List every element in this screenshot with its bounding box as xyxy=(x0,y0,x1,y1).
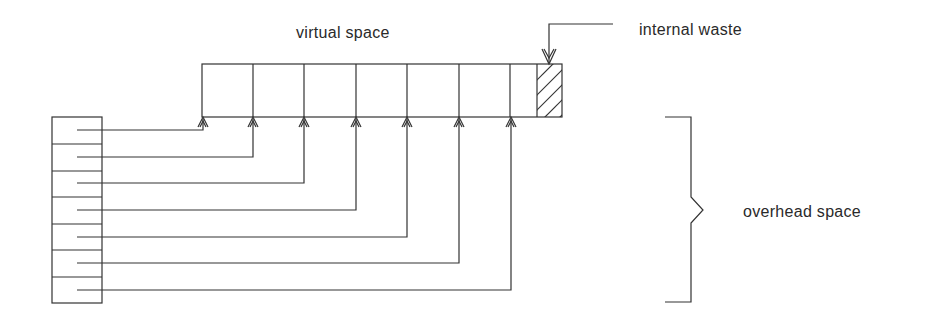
page-pointers xyxy=(77,117,516,290)
pointer-line xyxy=(77,119,459,263)
hatch-line xyxy=(530,77,570,117)
hatch-line xyxy=(530,62,570,102)
hatch-line xyxy=(530,107,570,147)
pointer-line xyxy=(77,119,203,130)
memory-overhead-diagram: virtual space internal waste overhead sp… xyxy=(0,0,938,322)
diagram-canvas xyxy=(0,0,938,322)
overhead-space-brace xyxy=(665,117,703,302)
virtual-space-strip xyxy=(202,64,562,117)
pointer-line xyxy=(549,24,613,63)
pointer-line xyxy=(77,119,511,290)
virtual-space-outline xyxy=(202,64,562,117)
pointer-line xyxy=(77,119,253,157)
virtual-space-label: virtual space xyxy=(296,25,390,41)
right-brace-icon xyxy=(665,117,703,302)
internal-waste-pointer xyxy=(542,24,613,64)
internal-waste-label: internal waste xyxy=(639,22,742,38)
pointer-line xyxy=(77,119,304,183)
hatch-line xyxy=(530,92,570,132)
overhead-space-label: overhead space xyxy=(743,204,861,220)
pointer-line xyxy=(77,119,356,210)
pointer-line xyxy=(77,119,407,237)
hatch-line xyxy=(530,47,570,87)
